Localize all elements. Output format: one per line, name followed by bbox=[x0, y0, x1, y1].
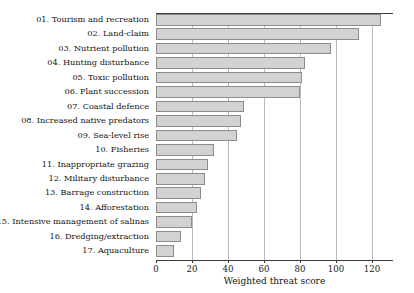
x-tick-0 bbox=[156, 260, 157, 264]
bar-row bbox=[156, 115, 241, 127]
bar bbox=[156, 86, 300, 98]
category-label: 09. Sea-level rise bbox=[78, 130, 149, 142]
category-label: 05. Toxic pollution bbox=[72, 72, 149, 84]
category-label: 08. Increased native predators bbox=[21, 115, 149, 127]
category-label: 17. Aquaculture bbox=[82, 245, 149, 257]
category-label: 04. Hunting disturbance bbox=[47, 57, 149, 69]
x-tick-label: 60 bbox=[249, 264, 279, 275]
bar-row bbox=[156, 101, 244, 113]
category-label: 03. Nutrient pollution bbox=[58, 43, 149, 55]
x-tick-label: 120 bbox=[357, 264, 387, 275]
bar bbox=[156, 101, 244, 113]
bar-row bbox=[156, 130, 237, 142]
category-label: 13. Barrage construction bbox=[45, 187, 149, 199]
bar-row bbox=[156, 43, 331, 55]
x-tick-20 bbox=[192, 260, 193, 264]
bar-row bbox=[156, 14, 381, 26]
bar-row bbox=[156, 245, 174, 257]
bar bbox=[156, 130, 237, 142]
category-label: 02. Land-claim bbox=[87, 28, 149, 40]
bar-row bbox=[156, 159, 208, 171]
category-label: 14. Afforestation bbox=[80, 202, 149, 214]
bar-row bbox=[156, 216, 192, 228]
x-tick-label: 0 bbox=[141, 264, 171, 275]
category-label-column: 01. Tourism and recreation02. Land-claim… bbox=[0, 14, 152, 260]
plot-area bbox=[156, 14, 390, 260]
x-tick-label: 20 bbox=[177, 264, 207, 275]
category-label: 16. Dredging/extraction bbox=[49, 231, 149, 243]
bar bbox=[156, 187, 201, 199]
bar bbox=[156, 43, 331, 55]
bar-row bbox=[156, 173, 205, 185]
category-label: 01. Tourism and recreation bbox=[36, 14, 149, 26]
gridline-120 bbox=[372, 14, 373, 260]
bar-row bbox=[156, 57, 305, 69]
bar bbox=[156, 173, 205, 185]
bar bbox=[156, 14, 381, 26]
x-tick-label: 40 bbox=[213, 264, 243, 275]
category-label: 12. Military disturbance bbox=[48, 173, 149, 185]
bar-row bbox=[156, 231, 181, 243]
category-label: 11. Inappropriate grazing bbox=[42, 159, 149, 171]
bar-row bbox=[156, 144, 214, 156]
bar bbox=[156, 231, 181, 243]
bar bbox=[156, 245, 174, 257]
x-tick-100 bbox=[336, 260, 337, 264]
bar bbox=[156, 115, 241, 127]
bar bbox=[156, 57, 305, 69]
bar bbox=[156, 202, 197, 214]
x-tick-label: 80 bbox=[285, 264, 315, 275]
bar bbox=[156, 216, 192, 228]
gridline-100 bbox=[336, 14, 337, 260]
x-tick-label: 100 bbox=[321, 264, 351, 275]
x-tick-120 bbox=[372, 260, 373, 264]
bar-row bbox=[156, 187, 201, 199]
category-label: 15. Intensive management of salinas bbox=[0, 216, 149, 228]
x-tick-40 bbox=[228, 260, 229, 264]
category-label: 07. Coastal defence bbox=[67, 101, 149, 113]
bar-row bbox=[156, 72, 302, 84]
category-label: 06. Plant succession bbox=[64, 86, 149, 98]
bar bbox=[156, 159, 208, 171]
bar-row bbox=[156, 28, 359, 40]
weighted-threat-score-bar-chart: 01. Tourism and recreation02. Land-claim… bbox=[0, 0, 414, 293]
bar-row bbox=[156, 86, 300, 98]
category-label: 10. Fisheries bbox=[95, 144, 149, 156]
x-axis-title: Weighted threat score bbox=[156, 276, 393, 286]
bar bbox=[156, 144, 214, 156]
bar-row bbox=[156, 202, 197, 214]
bar bbox=[156, 72, 302, 84]
x-tick-60 bbox=[264, 260, 265, 264]
bar bbox=[156, 28, 359, 40]
x-tick-80 bbox=[300, 260, 301, 264]
